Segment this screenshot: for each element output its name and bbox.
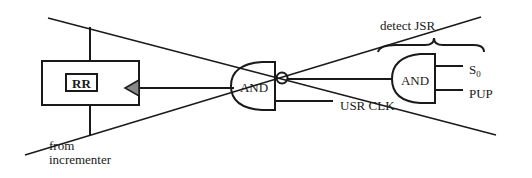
register-label: RR [72, 76, 91, 91]
from-label: from [49, 138, 74, 153]
usr-clk-label: USR CLK [340, 98, 395, 113]
and-gate-detect: AND [392, 54, 463, 103]
detect-brace [378, 38, 484, 52]
pup-label: PUP [469, 86, 493, 101]
circuit-diagram: RR AND USR CLK AND S0 PUP detect JSR fro… [0, 0, 532, 178]
register-rr: RR [42, 27, 139, 136]
detect-jsr-label: detect JSR [380, 18, 436, 33]
incrementer-label: incrementer [49, 152, 112, 167]
s0-label: S0 [469, 62, 481, 79]
and-gate-detect-label: AND [401, 73, 429, 88]
clock-triangle-icon [125, 80, 139, 96]
